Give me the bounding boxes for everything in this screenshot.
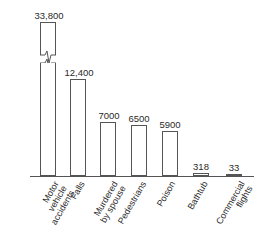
category-label: Poison: [156, 180, 178, 208]
value-label: 12,400: [59, 67, 99, 78]
bar-poison: [162, 131, 178, 176]
value-label: 33: [214, 162, 254, 173]
x-axis: [30, 176, 254, 177]
category-label: Commercial flights: [215, 180, 255, 231]
category-label: Motor vehicle accidents: [34, 180, 76, 226]
bar-pedestrians: [131, 125, 147, 176]
bar-motor-vehicle-lower: [40, 63, 56, 176]
bar-falls: [70, 79, 86, 176]
category-label: Bathtub: [186, 180, 209, 211]
category-label: Falls: [69, 180, 86, 201]
value-label: 5900: [150, 119, 190, 130]
value-label: 33,800: [29, 10, 69, 21]
bar-murdered: [100, 122, 116, 176]
